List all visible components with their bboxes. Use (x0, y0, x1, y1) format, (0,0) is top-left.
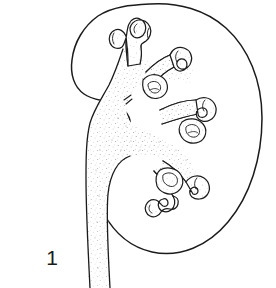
inferior-minor-calyx-outline (156, 168, 183, 194)
middle-minor-calyx-cluster (179, 119, 206, 143)
upper-minor-calyx-outline (143, 75, 168, 99)
figure-container: 1 (0, 0, 276, 288)
lowermost-calyx (145, 196, 178, 217)
middle-major-calyx-outline (196, 98, 216, 122)
middle-minor-calyx-outline (179, 119, 206, 143)
figure-number-label: 1 (38, 246, 66, 270)
upper-minor-calyx-cluster (143, 75, 168, 99)
inferior-major-calyx-outline (186, 176, 209, 199)
inferior-major-calyx (186, 176, 209, 199)
lowermost-calyx-outline (145, 196, 178, 217)
kidney-diagram (0, 0, 276, 288)
superior-calyx-outline (109, 18, 151, 66)
superior-major-calyx (109, 18, 151, 66)
inferior-minor-calyx-cluster (156, 168, 183, 194)
middle-major-calyx (196, 98, 216, 122)
